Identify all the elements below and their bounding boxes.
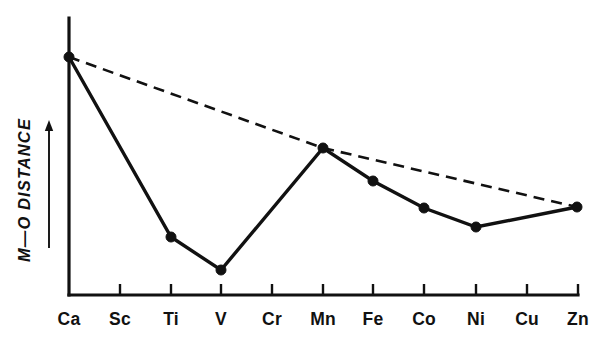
x-axis-label-fe: Fe	[363, 309, 384, 329]
x-axis-label-v: V	[215, 309, 227, 329]
data-point-ni	[471, 222, 481, 232]
data-point-ca	[64, 52, 74, 62]
y-axis-title: M—O DISTANCE	[15, 118, 33, 262]
x-axis-label-ni: Ni	[467, 309, 485, 329]
chart-figure: CaScTiVCrMnFeCoNiCuZn M—O DISTANCE	[0, 0, 610, 350]
data-point-markers	[64, 52, 582, 275]
data-point-zn	[572, 202, 582, 212]
observed-series-line	[69, 57, 577, 270]
x-axis-label-cr: Cr	[262, 309, 282, 329]
data-point-mn	[318, 143, 328, 153]
x-axis-label-cu: Cu	[515, 309, 539, 329]
data-point-co	[419, 203, 429, 213]
y-axis-direction-arrow	[45, 120, 53, 248]
x-axis-label-zn: Zn	[567, 309, 589, 329]
chart-canvas: CaScTiVCrMnFeCoNiCuZn M—O DISTANCE	[0, 0, 610, 350]
x-axis-label-ti: Ti	[163, 309, 179, 329]
reference-trend-line	[69, 57, 577, 207]
x-axis-label-ca: Ca	[58, 309, 81, 329]
x-axis-label-mn: Mn	[310, 309, 336, 329]
x-axis-label-sc: Sc	[109, 309, 131, 329]
x-axis-tick-labels: CaScTiVCrMnFeCoNiCuZn	[58, 309, 589, 329]
data-point-fe	[368, 176, 378, 186]
x-axis-ticks	[120, 284, 578, 295]
data-point-ti	[166, 232, 176, 242]
x-axis-label-co: Co	[412, 309, 436, 329]
arrow-head-icon	[45, 120, 53, 131]
data-point-v	[216, 265, 226, 275]
